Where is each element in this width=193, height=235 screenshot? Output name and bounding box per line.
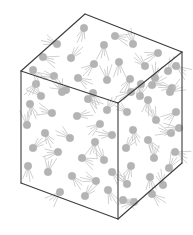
particle-body: [24, 162, 32, 170]
particle-body: [123, 108, 131, 116]
particle-body: [164, 67, 172, 75]
particle-body: [29, 144, 37, 152]
particle-body: [108, 131, 116, 139]
particle: [148, 190, 165, 206]
particle-body: [172, 62, 180, 70]
particle-body: [23, 121, 31, 129]
particle-body: [54, 148, 62, 156]
particle-body: [37, 92, 45, 100]
particle-body: [103, 76, 111, 84]
particle-body: [81, 192, 89, 200]
particle-body: [126, 75, 134, 83]
particle-body: [171, 148, 179, 156]
particle-body: [41, 129, 49, 137]
particle-body: [115, 58, 123, 66]
particle-body: [80, 24, 88, 32]
particle-body: [58, 88, 66, 96]
particle-body: [103, 106, 111, 114]
gas-particle-cube-figure: [0, 0, 193, 235]
particle-body: [119, 196, 127, 204]
particle-body: [127, 162, 135, 170]
particle-body: [56, 188, 64, 196]
particle-body: [67, 54, 75, 62]
cube-diagram: [0, 0, 193, 235]
particle-body: [123, 180, 131, 188]
particle-body: [48, 109, 56, 117]
particle-body: [26, 100, 34, 108]
particle-body: [73, 112, 81, 120]
particle-body: [129, 126, 137, 134]
particle-body: [108, 168, 116, 176]
particle-body: [74, 74, 82, 82]
particle-body: [129, 40, 137, 48]
particle-body: [152, 116, 160, 124]
particle-body: [92, 177, 100, 185]
particle-body: [100, 156, 108, 164]
particle-body: [91, 138, 99, 146]
particle-body: [144, 136, 152, 144]
particle-body: [90, 60, 98, 68]
particle-body: [148, 81, 156, 89]
particle-body: [96, 120, 104, 128]
particle-body: [136, 92, 144, 100]
particle-body: [104, 186, 112, 194]
particle-body: [66, 134, 74, 142]
particle-body: [166, 88, 174, 96]
particle-body: [29, 66, 37, 74]
particle-body: [111, 32, 119, 40]
particle-body: [50, 72, 58, 80]
particle-body: [44, 168, 52, 176]
particle-body: [154, 49, 162, 57]
particle-body: [150, 154, 158, 162]
particle-body: [165, 164, 173, 172]
particle-body: [78, 154, 86, 162]
particle-body: [172, 108, 180, 116]
particle-body: [68, 172, 76, 180]
particle-body: [100, 41, 108, 49]
particle-body: [144, 96, 152, 104]
particle-body: [146, 173, 154, 181]
particle-body: [141, 62, 149, 70]
particle-body: [122, 144, 130, 152]
particle-body: [84, 95, 92, 103]
